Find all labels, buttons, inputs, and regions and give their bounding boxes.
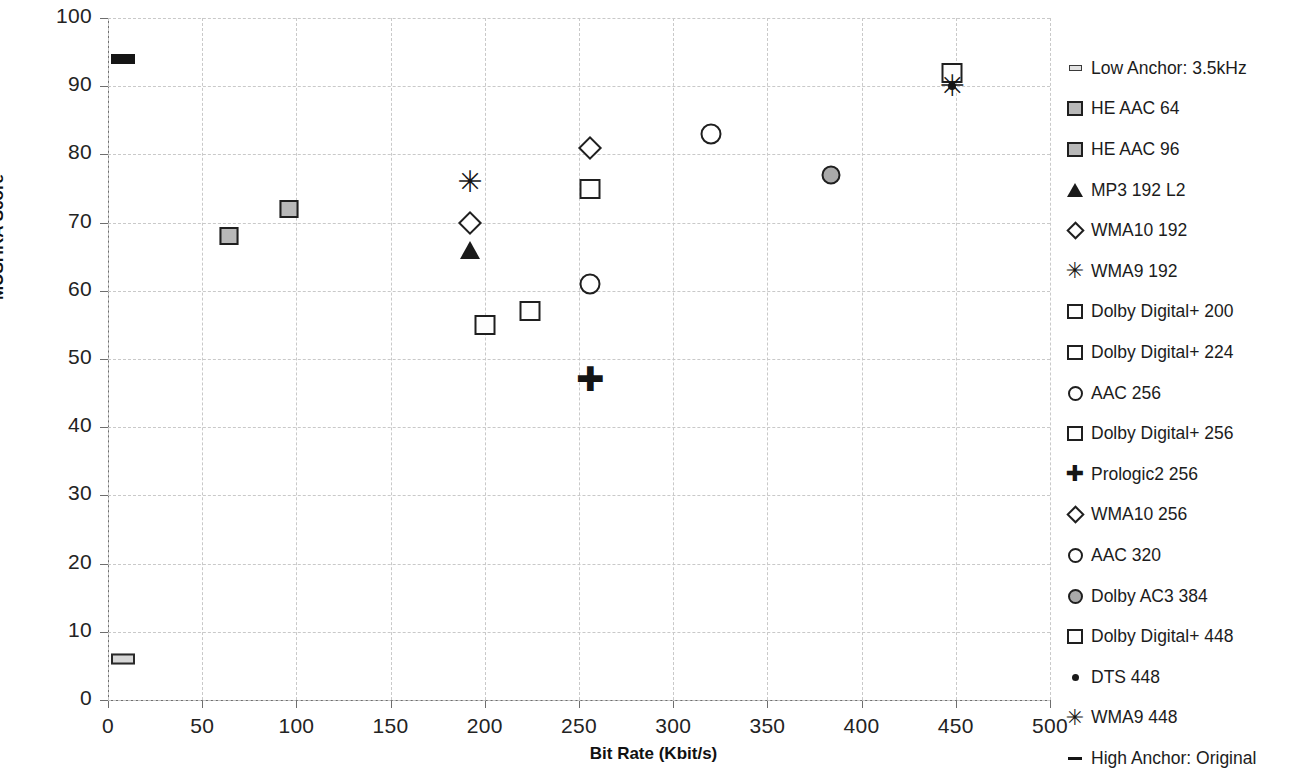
x-axis-tick-label: 150 xyxy=(361,714,421,738)
marker-plus: ✚ xyxy=(1066,463,1084,485)
legend-marker-circ-open-icon xyxy=(1062,542,1088,568)
gridline-vertical xyxy=(1050,18,1051,700)
legend-item-label: Dolby Digital+ 256 xyxy=(1088,423,1234,444)
legend-marker-tri-icon xyxy=(1062,177,1088,203)
legend-item[interactable]: HE AAC 96 xyxy=(1062,129,1307,170)
legend-item-label: Prologic2 256 xyxy=(1088,464,1198,485)
legend-item[interactable]: MP3 192 L2 xyxy=(1062,170,1307,211)
x-axis-tick-label: 450 xyxy=(926,714,986,738)
data-point xyxy=(822,165,841,184)
legend-item[interactable]: ✳WMA9 448 xyxy=(1062,698,1307,739)
x-axis-tick-label: 300 xyxy=(643,714,703,738)
x-axis-tick xyxy=(202,700,203,708)
data-point xyxy=(458,211,482,235)
legend-item-label: WMA9 448 xyxy=(1088,707,1178,728)
legend-marker-circ-open-icon xyxy=(1062,380,1088,406)
y-axis-tick-label: 100 xyxy=(22,4,92,28)
legend-marker-asterisk-icon: ✳ xyxy=(1062,705,1088,731)
data-point xyxy=(474,315,495,335)
y-axis-tick-label: 50 xyxy=(22,345,92,369)
y-axis-tick-label: 10 xyxy=(22,618,92,642)
x-axis-tick xyxy=(1050,700,1051,708)
chart-legend: Low Anchor: 3.5kHzHE AAC 64HE AAC 96MP3 … xyxy=(1062,48,1307,772)
y-axis-tick xyxy=(100,632,108,633)
x-axis-tick-label: 400 xyxy=(832,714,892,738)
y-axis-tick-label: 70 xyxy=(22,209,92,233)
y-axis-tick-label: 40 xyxy=(22,413,92,437)
y-axis-tick xyxy=(100,291,108,292)
legend-item[interactable]: AAC 320 xyxy=(1062,535,1307,576)
x-axis-tick-label: 50 xyxy=(172,714,232,738)
x-axis-tick-label: 250 xyxy=(549,714,609,738)
legend-marker-sq-open-icon xyxy=(1062,624,1088,650)
data-point xyxy=(580,273,601,294)
legend-item-label: WMA10 192 xyxy=(1088,220,1187,241)
legend-item[interactable]: Dolby Digital+ 200 xyxy=(1062,292,1307,333)
x-axis-tick xyxy=(862,700,863,708)
data-point xyxy=(578,136,602,160)
legend-item[interactable]: ✳WMA9 192 xyxy=(1062,251,1307,292)
data-point xyxy=(279,200,298,218)
gridline-horizontal xyxy=(108,700,1050,701)
x-axis-tick-label: 0 xyxy=(78,714,138,738)
x-axis-tick-label: 350 xyxy=(737,714,797,738)
marker-sq-open xyxy=(1067,629,1083,644)
marker-sq-open xyxy=(1067,345,1083,360)
data-point xyxy=(580,179,601,199)
y-axis-tick xyxy=(100,700,108,701)
legend-item-label: MP3 192 L2 xyxy=(1088,180,1185,201)
marker-diam xyxy=(1066,221,1084,239)
legend-item[interactable]: WMA10 256 xyxy=(1062,495,1307,536)
data-point xyxy=(520,301,541,321)
y-axis-tick xyxy=(100,427,108,428)
legend-marker-diam-icon xyxy=(1062,218,1088,244)
data-point xyxy=(460,241,480,259)
marker-circ-gray xyxy=(1068,589,1083,604)
y-axis-tick-label: 0 xyxy=(22,686,92,710)
y-axis-tick-label: 20 xyxy=(22,550,92,574)
legend-marker-asterisk-icon: ✳ xyxy=(1062,258,1088,284)
y-axis-tick xyxy=(100,223,108,224)
legend-marker-sq-open-icon xyxy=(1062,421,1088,447)
legend-marker-diam-icon xyxy=(1062,502,1088,528)
y-axis-title: MUSHRA Score xyxy=(0,174,8,300)
legend-item[interactable]: WMA10 192 xyxy=(1062,210,1307,251)
legend-item[interactable]: ✚Prologic2 256 xyxy=(1062,454,1307,495)
y-axis-tick xyxy=(100,359,108,360)
y-axis-tick xyxy=(100,18,108,19)
legend-item-label: Dolby Digital+ 224 xyxy=(1088,342,1234,363)
plot-area: ✳✚✳ xyxy=(108,18,1050,700)
legend-item[interactable]: DTS 448 xyxy=(1062,657,1307,698)
legend-item-label: HE AAC 96 xyxy=(1088,139,1180,160)
x-axis-tick xyxy=(767,700,768,708)
legend-item-label: Dolby Digital+ 200 xyxy=(1088,301,1234,322)
marker-circ-open xyxy=(1068,548,1083,563)
legend-item[interactable]: Dolby Digital+ 256 xyxy=(1062,413,1307,454)
legend-item-label: HE AAC 64 xyxy=(1088,98,1180,119)
legend-item[interactable]: High Anchor: Original xyxy=(1062,738,1307,772)
legend-item[interactable]: Dolby Digital+ 448 xyxy=(1062,616,1307,657)
legend-item-label: WMA9 192 xyxy=(1088,261,1178,282)
legend-item-label: Dolby Digital+ 448 xyxy=(1088,626,1234,647)
legend-marker-sq-gray-icon xyxy=(1062,96,1088,122)
legend-item[interactable]: Dolby Digital+ 224 xyxy=(1062,332,1307,373)
x-axis-tick xyxy=(485,700,486,708)
legend-marker-circ-gray-icon xyxy=(1062,583,1088,609)
y-axis-tick xyxy=(100,154,108,155)
y-axis-tick xyxy=(100,495,108,496)
marker-dash-dark xyxy=(1068,757,1082,761)
y-axis-tick xyxy=(100,86,108,87)
legend-item-label: Dolby AC3 384 xyxy=(1088,586,1208,607)
legend-item[interactable]: Low Anchor: 3.5kHz xyxy=(1062,48,1307,89)
data-markers: ✳✚✳ xyxy=(108,18,1050,700)
legend-item[interactable]: HE AAC 64 xyxy=(1062,89,1307,130)
legend-marker-dash-dark-icon xyxy=(1062,745,1088,771)
legend-item[interactable]: AAC 256 xyxy=(1062,373,1307,414)
legend-item-label: AAC 256 xyxy=(1088,383,1161,404)
marker-dash-light xyxy=(1069,65,1082,71)
marker-asterisk: ✳ xyxy=(1066,260,1084,282)
legend-item[interactable]: Dolby AC3 384 xyxy=(1062,576,1307,617)
x-axis-tick xyxy=(108,700,109,708)
marker-sq-open xyxy=(1067,304,1083,319)
marker-sq-open xyxy=(1067,426,1083,441)
